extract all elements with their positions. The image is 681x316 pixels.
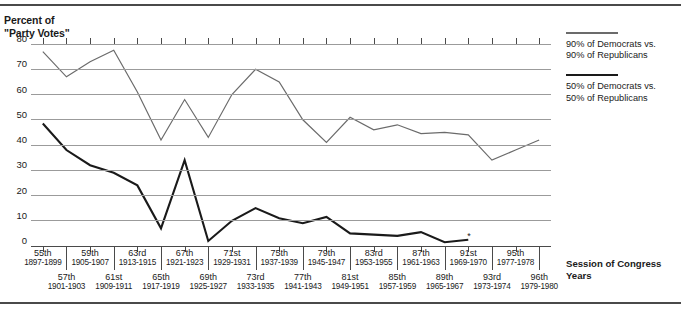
x-axis-label-session: 91st (445, 248, 492, 258)
x-label-separator (350, 248, 351, 270)
x-axis-label-session: 79th (303, 248, 350, 258)
gridline-20 (31, 195, 551, 196)
x-axis-label-95th: 95th1977-1978 (492, 248, 539, 268)
legend-label: 90% of Democrats vs. 90% of Republicans (566, 39, 678, 62)
axis-baseline (31, 246, 551, 247)
x-axis-label-years: 1969-1970 (445, 258, 492, 268)
series-line-50-percent (43, 124, 468, 243)
x-tick-top-61st (114, 38, 115, 44)
gridline-10 (31, 220, 551, 221)
y-axis-tick-label-0: 0 (3, 236, 27, 246)
x-tick-top-59th (90, 38, 91, 44)
x-axis-label-79th: 79th1945-1947 (303, 248, 350, 268)
x-axis-label-session: 89th (421, 272, 468, 282)
x-axis-label-85th: 85th1957-1959 (374, 272, 421, 292)
x-axis-label-67th: 67th1921-1923 (161, 248, 208, 268)
x-axis-label-session: 85th (374, 272, 421, 282)
y-axis-tick-label-10: 10 (3, 211, 27, 221)
x-axis-label-session: 96th (516, 272, 563, 282)
x-axis-label-83rd: 83rd1953-1955 (350, 248, 397, 268)
x-axis-label-years: 1973-1974 (468, 282, 515, 292)
x-axis-label-years: 1949-1951 (326, 282, 373, 292)
x-axis-label-73rd: 73rd1933-1935 (232, 272, 279, 292)
x-tick-top-83rd (374, 38, 375, 44)
x-axis-label-years: 1945-1947 (303, 258, 350, 268)
x-axis-label-session: 55th (19, 248, 66, 258)
x-axis-label-63rd: 63rd1913-1915 (114, 248, 161, 268)
x-axis-label-75th: 75th1937-1939 (256, 248, 303, 268)
x-tick-top-93rd (492, 38, 493, 44)
x-axis-label-years: 1957-1959 (374, 282, 421, 292)
x-axis-label-years: 1953-1955 (350, 258, 397, 268)
x-axis-label-session: 87th (397, 248, 444, 258)
x-axis-label-69th: 69th1925-1927 (185, 272, 232, 292)
chart-legend: 90% of Democrats vs. 90% of Republicans5… (566, 32, 678, 116)
x-axis-label-session: 67th (161, 248, 208, 258)
x-axis-labels: 55th1897-189957th1901-190359th1905-19076… (31, 248, 551, 302)
legend-90: 90% of Democrats vs. 90% of Republicans (566, 32, 678, 62)
x-tick-top-69th (208, 38, 209, 44)
x-axis-label-57th: 57th1901-1903 (43, 272, 90, 292)
x-label-separator (303, 248, 304, 270)
x-tick-top-89th (445, 38, 446, 44)
x-label-separator (66, 248, 67, 270)
chart-plot-area: * 01020304050607080 (31, 44, 551, 246)
x-axis-label-session: 61st (90, 272, 137, 282)
x-axis-label-years: 1901-1903 (43, 282, 90, 292)
gridline-40 (31, 145, 551, 146)
x-tick-top-87th (421, 38, 422, 44)
x-axis-label-session: 75th (256, 248, 303, 258)
x-tick-top-67th (185, 38, 186, 44)
x-axis-label-55th: 55th1897-1899 (19, 248, 66, 268)
legend-line-swatch-icon (566, 32, 618, 34)
x-axis-label-61st: 61st1909-1911 (90, 272, 137, 292)
x-axis-label-77th: 77th1941-1943 (279, 272, 326, 292)
x-axis-label-59th: 59th1905-1907 (66, 248, 113, 268)
x-axis-label-years: 1937-1939 (256, 258, 303, 268)
x-axis-label-93rd: 93rd1973-1974 (468, 272, 515, 292)
x-label-separator (161, 248, 162, 270)
gridline-80 (31, 44, 551, 45)
x-label-separator (114, 248, 115, 270)
x-axis-label-years: 1921-1923 (161, 258, 208, 268)
x-tick-top-81st (350, 38, 351, 44)
x-axis-label-years: 1961-1963 (397, 258, 444, 268)
x-axis-label-years: 1909-1911 (90, 282, 137, 292)
x-axis-label-years: 1925-1927 (185, 282, 232, 292)
legend-line-swatch-icon (566, 74, 618, 77)
x-tick-top-71st (232, 38, 233, 44)
x-axis-label-session: 69th (185, 272, 232, 282)
x-tick-top-55th (43, 38, 44, 44)
gridline-50 (31, 119, 551, 120)
x-axis-label-years: 1979-1980 (516, 282, 563, 292)
y-axis-tick-label-30: 30 (3, 160, 27, 170)
x-axis-label-years: 1913-1915 (114, 258, 161, 268)
x-axis-label-years: 1941-1943 (279, 282, 326, 292)
x-axis-label-years: 1965-1967 (421, 282, 468, 292)
x-axis-label-years: 1933-1935 (232, 282, 279, 292)
top-divider-rule (0, 4, 681, 6)
x-tick-top-65th (161, 38, 162, 44)
x-axis-label-session: 57th (43, 272, 90, 282)
x-label-separator (492, 248, 493, 270)
x-label-separator (539, 248, 540, 270)
x-axis-label-session: 93rd (468, 272, 515, 282)
legend-50: 50% of Democrats vs. 50% of Republicans (566, 74, 678, 105)
legend-label: 50% of Democrats vs. 50% of Republicans (566, 81, 678, 104)
x-axis-label-87th: 87th1961-1963 (397, 248, 444, 268)
x-axis-label-years: 1977-1978 (492, 258, 539, 268)
y-axis-tick-label-50: 50 (3, 110, 27, 120)
y-axis-tick-label-20: 20 (3, 186, 27, 196)
gridline-60 (31, 94, 551, 95)
x-axis-label-session: 81st (326, 272, 373, 282)
x-tick-top-79th (326, 38, 327, 44)
x-label-separator (445, 248, 446, 270)
x-axis-label-71st: 71st1929-1931 (208, 248, 255, 268)
bottom-divider-rule (0, 302, 681, 304)
x-axis-label-session: 95th (492, 248, 539, 258)
x-tick-top-75th (279, 38, 280, 44)
x-axis-label-years: 1917-1919 (137, 282, 184, 292)
x-tick-top-85th (397, 38, 398, 44)
x-tick-top-63rd (137, 38, 138, 44)
x-axis-label-years: 1897-1899 (19, 258, 66, 268)
